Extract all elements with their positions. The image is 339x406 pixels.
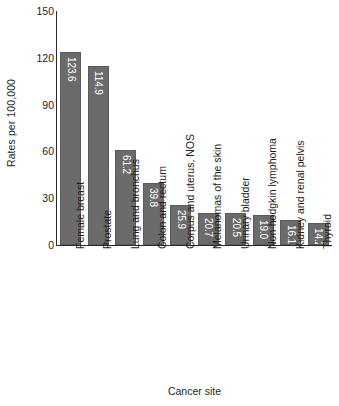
x-axis-category-labels: Female breastProstateLung and bronchusCo…	[57, 249, 332, 369]
bar-value-label: 123.6	[66, 57, 76, 82]
x-axis-title: Cancer site	[57, 385, 332, 397]
y-axis-tick-label: 120	[22, 53, 54, 63]
x-axis-category-label-text: Prostate	[102, 210, 113, 249]
x-axis-category-label-text: Colon and rectum	[157, 166, 168, 249]
x-axis-category-label-text: Melanomas of the skin	[212, 144, 223, 249]
x-axis-category-label-text: Female breast	[75, 182, 86, 249]
y-axis-tick-label: 30	[22, 193, 54, 203]
y-axis-title-text: Rates per 100,000	[5, 79, 17, 167]
y-axis-tick-label: 150	[22, 6, 54, 16]
x-axis-category-label-text: Non-hodgkin lymphoma	[267, 138, 278, 249]
y-axis-tick-label: 90	[22, 100, 54, 110]
bar-chart: Rates per 100,000 0306090120150 123.6114…	[0, 0, 339, 406]
x-axis-category-label-text: Kidney and renal pelvis	[295, 140, 306, 249]
x-axis-category-label-text: Urinary bladder	[240, 177, 251, 249]
bar-value-label: 114.9	[93, 71, 103, 95]
bar-slot: 14.2	[308, 11, 329, 245]
x-axis-category-label-text: Corpus and uterus, NOS	[185, 134, 196, 249]
x-axis-category-label-text: Lung and bronchus	[130, 159, 141, 249]
y-axis-tick-label: 0	[22, 240, 54, 250]
y-axis-title: Rates per 100,000	[0, 0, 22, 246]
x-axis-category-label-text: Thyroid	[322, 214, 333, 249]
y-axis-tick-label: 60	[22, 146, 54, 156]
y-axis-tick-labels: 0306090120150	[22, 0, 54, 250]
